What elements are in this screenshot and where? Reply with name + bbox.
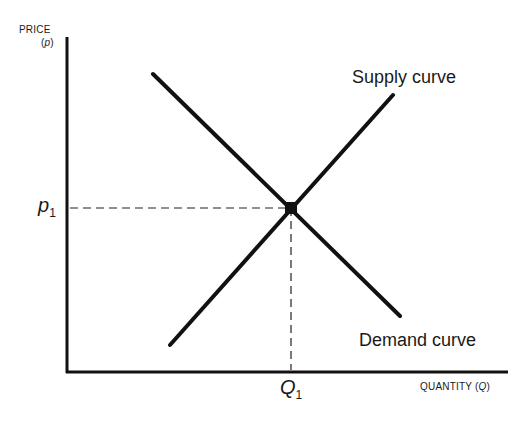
quantity-label-text: Q [280,376,296,398]
price-label-subscript: 1 [49,206,56,220]
supply-curve-label: Supply curve [352,67,456,88]
quantity-label-subscript: 1 [296,388,303,402]
x-axis-title: QUANTITY (Q) [420,381,490,392]
y-axis-symbol-text: p [45,37,51,48]
price-label-text: p [38,194,49,216]
demand-curve-label: Demand curve [359,330,476,351]
supply-curve [170,95,393,345]
x-axis-symbol-text: Q [479,381,487,392]
x-axis-title-text: QUANTITY [420,381,472,392]
y-axis-title: PRICE [19,24,51,35]
equilibrium-point [285,202,297,214]
supply-demand-diagram [0,0,527,424]
quantity-q1-label: Q1 [280,376,302,402]
demand-curve [153,74,400,316]
y-axis-symbol: (p) [41,37,54,48]
y-axis-title-text: PRICE [19,24,51,35]
price-p1-label: p1 [38,194,56,220]
